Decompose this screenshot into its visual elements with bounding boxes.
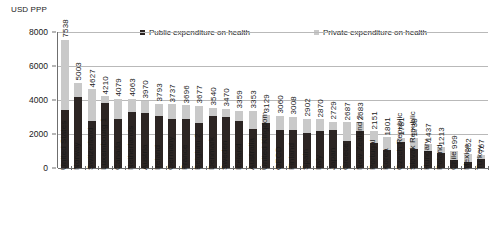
bar-value-label: 4627 xyxy=(87,69,96,88)
bar-segment-private xyxy=(155,104,163,116)
x-category-label: Poland xyxy=(435,144,444,170)
x-category-label: Greece xyxy=(341,143,350,170)
x-category-label: Switzerland xyxy=(86,128,95,170)
health-expenditure-chart: USD PPP Public expenditure on health Pri… xyxy=(0,0,495,244)
bar-segment-private xyxy=(249,111,257,129)
x-category-label: Denmark xyxy=(207,137,216,170)
bar-value-label: 2151 xyxy=(369,111,378,130)
bar-segment-private xyxy=(209,108,217,117)
x-category-label: France xyxy=(180,145,189,171)
bar-segment-private xyxy=(141,101,149,114)
x-category-label: Japan xyxy=(328,148,337,170)
x-category-label: OECD xyxy=(274,146,283,170)
x-category-label: Portugal xyxy=(368,139,377,170)
x-category-label: Australia xyxy=(247,138,256,170)
y-axis-labels: 02000400060008000 xyxy=(0,32,56,168)
x-category-label: New Zealand 2 xyxy=(355,115,364,170)
x-category-label: Norway xyxy=(72,142,81,170)
bar-value-label: 1801 xyxy=(383,117,392,136)
bar-segment-private xyxy=(276,116,284,130)
y-tick-mark xyxy=(52,168,56,169)
y-tick-label: 8000 xyxy=(29,27,48,37)
bar-segment-private xyxy=(74,83,82,97)
bar-value-label: 3737 xyxy=(168,84,177,103)
bar-column[interactable]: 2902 xyxy=(300,32,313,168)
x-category-label: Hungary xyxy=(422,139,431,170)
x-category-label: Canada xyxy=(113,141,122,170)
bar-value-label: 4063 xyxy=(127,78,136,97)
bar-value-label: 2729 xyxy=(329,101,338,120)
bar-segment-private xyxy=(222,109,230,117)
y-tick-mark xyxy=(52,66,56,67)
x-category-label: Belgium 2 xyxy=(193,134,202,170)
x-category-label: Spain xyxy=(301,149,310,170)
y-tick-mark xyxy=(52,32,56,33)
bar-value-label: 4079 xyxy=(114,78,123,97)
x-category-label: Finland xyxy=(287,143,296,170)
x-category-label: Italy xyxy=(314,155,323,170)
bar-value-label: 3470 xyxy=(221,88,230,107)
y-tick-label: 4000 xyxy=(29,95,48,105)
y-tick-label: 0 xyxy=(43,163,48,173)
bar-value-label: 3008 xyxy=(289,96,298,115)
x-category-label: Luxembourg 1 xyxy=(99,118,108,170)
x-category-label: Germany xyxy=(166,136,175,170)
bar-segment-private xyxy=(329,122,337,130)
bar-value-label: 2902 xyxy=(302,98,311,117)
x-category-label: Iceland xyxy=(234,144,243,171)
bar-value-label: 5003 xyxy=(74,62,83,81)
bar-column[interactable]: 999 xyxy=(448,32,461,168)
x-axis-category-labels: United StatesNorwaySwitzerlandLuxembourg… xyxy=(58,170,488,244)
bar-value-label: 3696 xyxy=(181,85,190,104)
bar-value-label: 3129 xyxy=(262,94,271,113)
bar-value-label: 7538 xyxy=(60,19,69,38)
x-category-label: United Kingdom xyxy=(260,112,269,170)
x-category-label: Turkey xyxy=(475,145,484,170)
bar-value-label: 999 xyxy=(450,135,459,149)
bar-value-label: 3677 xyxy=(195,85,204,104)
bar-value-label: 3353 xyxy=(248,90,257,109)
bar-value-label: 4210 xyxy=(101,76,110,95)
bar-segment-private xyxy=(235,111,243,121)
bar-segment-private xyxy=(195,106,203,123)
bar-segment-private xyxy=(289,117,297,130)
bar-value-label: 3793 xyxy=(154,83,163,102)
y-axis-unit-label: USD PPP xyxy=(11,5,47,14)
bar-value-label: 1213 xyxy=(436,127,445,146)
bar-segment-private xyxy=(114,99,122,119)
bar-value-label: 3540 xyxy=(208,87,217,106)
bar-value-label: 3970 xyxy=(141,80,150,99)
y-tick-mark xyxy=(52,100,56,101)
bar-segment-private xyxy=(182,105,190,119)
x-category-label: Slovak Republic xyxy=(408,111,417,170)
y-tick-label: 6000 xyxy=(29,61,48,71)
bar-value-label: 3060 xyxy=(275,95,284,114)
bar-segment-private xyxy=(88,89,96,121)
bar-segment-private xyxy=(128,99,136,112)
x-category-label: Czech Republic xyxy=(395,113,404,170)
bar-segment-private xyxy=(61,40,69,110)
x-category-label: Austria xyxy=(140,144,149,170)
x-category-label: Mexico xyxy=(462,144,471,170)
x-category-label: Netherlands xyxy=(126,126,135,170)
x-category-label: Sweden xyxy=(220,140,229,170)
x-tick-mark xyxy=(488,166,489,170)
bar-value-label: 3359 xyxy=(235,90,244,109)
x-category-label: Korea xyxy=(381,148,390,170)
x-category-label: United States xyxy=(59,121,68,170)
bar-column[interactable]: 2870 xyxy=(313,32,326,168)
y-tick-mark xyxy=(52,134,56,135)
bar-segment-private xyxy=(303,119,311,134)
bar-segment-private xyxy=(168,104,176,119)
bar-segment-private xyxy=(343,122,351,140)
x-category-label: Ireland xyxy=(153,145,162,170)
y-tick-label: 2000 xyxy=(29,129,48,139)
bar-segment-private xyxy=(316,119,324,130)
bar-value-label: 2870 xyxy=(316,99,325,118)
bar-value-label: 2687 xyxy=(342,102,351,121)
x-category-label: Chile xyxy=(449,151,458,170)
